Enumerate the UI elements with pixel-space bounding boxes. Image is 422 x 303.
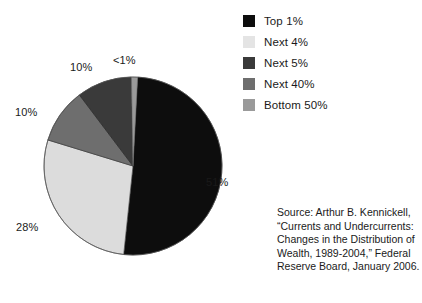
pie-chart-area: 51% 28% 10% 10% <1% [0, 0, 240, 303]
source-line: Source: Arthur B. Kennickell, [277, 206, 419, 220]
source-line: Wealth, 1989-2004,” Federal [277, 247, 419, 261]
legend-item-next-5: Next 5% [243, 52, 418, 73]
pie-label-top-1: 51% [206, 176, 228, 188]
legend-label: Top 1% [264, 15, 303, 27]
legend-swatch-icon [243, 15, 255, 27]
legend-item-next-4: Next 4% [243, 31, 418, 52]
pie-label-next-40: 10% [15, 106, 37, 118]
legend-label: Next 40% [264, 78, 315, 90]
source-line: Reserve Board, January 2006. [277, 260, 419, 274]
source-note: Source: Arthur B. Kennickell, “Currents … [277, 206, 419, 274]
pie-chart-figure: 51% 28% 10% 10% <1% Top 1% Next 4% Next … [0, 0, 422, 303]
pie-label-next-5: 10% [70, 61, 92, 73]
legend: Top 1% Next 4% Next 5% Next 40% Bottom 5… [243, 10, 418, 115]
legend-swatch-icon [243, 36, 255, 48]
pie-chart-svg [0, 0, 240, 303]
legend-swatch-icon [243, 99, 255, 111]
legend-item-next-40: Next 40% [243, 73, 418, 94]
source-line: “Currents and Undercurrents: [277, 220, 419, 234]
legend-item-bottom-50: Bottom 50% [243, 94, 418, 115]
legend-label: Bottom 50% [264, 99, 328, 111]
legend-label: Next 5% [264, 57, 308, 69]
pie-label-next-4: 28% [16, 221, 38, 233]
pie-label-bottom-50: <1% [113, 54, 136, 66]
pie-slice-top-1 [124, 77, 222, 255]
legend-label: Next 4% [264, 36, 308, 48]
legend-swatch-icon [243, 57, 255, 69]
legend-swatch-icon [243, 78, 255, 90]
source-line: Changes in the Distribution of [277, 233, 419, 247]
legend-item-top-1: Top 1% [243, 10, 418, 31]
